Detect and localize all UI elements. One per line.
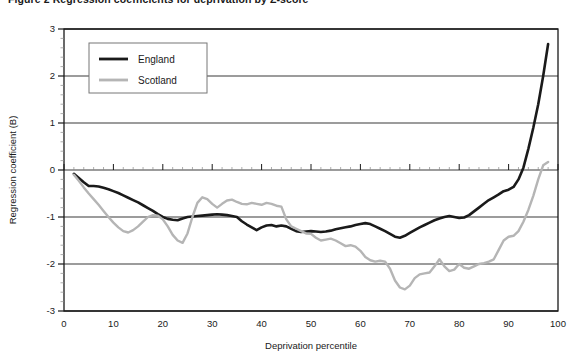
xtick-label-60: 60 — [355, 318, 366, 329]
xtick-label-100: 100 — [550, 318, 566, 329]
xtick-label-70: 70 — [405, 318, 416, 329]
figure-container: Figure 2 Regression coefficients for dep… — [0, 0, 575, 364]
xtick-label-90: 90 — [503, 318, 514, 329]
ytick-label--2: -2 — [47, 258, 55, 269]
legend-label-england: England — [138, 54, 175, 65]
x-axis-title: Deprivation percentile — [265, 340, 357, 351]
xtick-label-40: 40 — [256, 318, 267, 329]
ytick-label--1: -1 — [47, 211, 55, 222]
xtick-label-50: 50 — [306, 318, 317, 329]
ytick-label-2: 2 — [50, 70, 55, 81]
xtick-label-30: 30 — [207, 318, 218, 329]
xtick-label-20: 20 — [158, 318, 169, 329]
ytick-label--3: -3 — [47, 305, 55, 316]
xtick-label-0: 0 — [61, 318, 66, 329]
xtick-label-10: 10 — [108, 318, 119, 329]
y-axis-title: Regression coefficient (B) — [7, 116, 18, 225]
ytick-label-3: 3 — [50, 23, 55, 34]
xtick-label-80: 80 — [454, 318, 465, 329]
ytick-label-1: 1 — [50, 117, 55, 128]
ytick-label-0: 0 — [50, 164, 55, 175]
legend-label-scotland: Scotland — [138, 75, 177, 86]
regression-coefficient-line-chart: -3-2-101230102030405060708090100Deprivat… — [0, 0, 575, 364]
